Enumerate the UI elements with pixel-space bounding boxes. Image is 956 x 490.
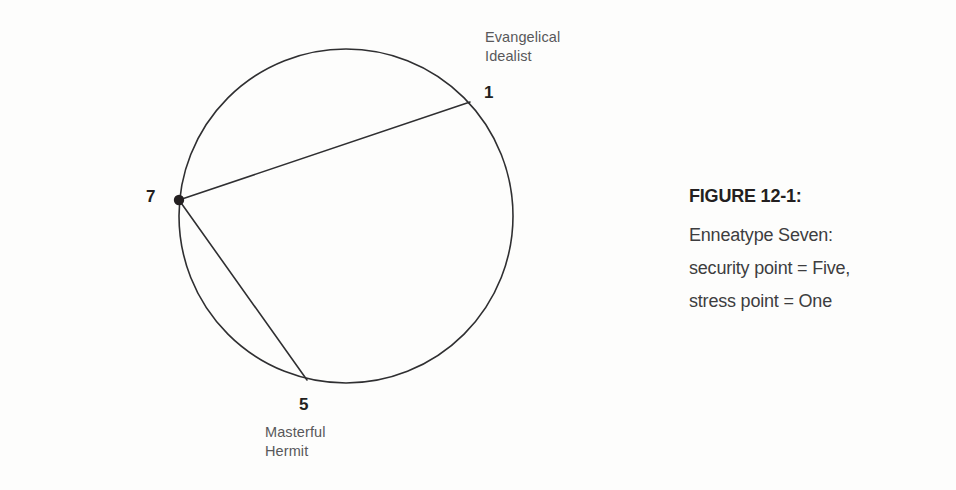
node-label-one-name-line1: Evangelical (485, 28, 560, 47)
figure-caption-title: FIGURE 12-1: (689, 186, 939, 207)
figure-caption-line-3: stress point = One (689, 285, 939, 318)
enneagram-svg (0, 0, 640, 490)
node-label-one-name: Evangelical Idealist (485, 28, 560, 66)
node-number-five: 5 (299, 396, 308, 413)
figure-page: Optimistic Dreamer 7 Evangelical Idealis… (0, 0, 956, 490)
connection-line-seven-one (179, 102, 470, 200)
node-label-five-name-line2: Hermit (265, 442, 326, 461)
enneagram-circle (179, 49, 513, 383)
connection-line-seven-five (179, 200, 307, 380)
node-number-seven: 7 (146, 188, 155, 205)
node-label-one-name-line2: Idealist (485, 47, 560, 66)
node-label-five-name: Masterful Hermit (265, 423, 326, 461)
enneagram-diagram: Optimistic Dreamer 7 Evangelical Idealis… (0, 0, 640, 490)
figure-caption: FIGURE 12-1: Enneatype Seven: security p… (689, 186, 939, 318)
node-number-one: 1 (484, 84, 493, 101)
node-label-five-name-line1: Masterful (265, 423, 326, 442)
figure-caption-line-1: Enneatype Seven: (689, 219, 939, 252)
figure-caption-line-2: security point = Five, (689, 252, 939, 285)
node-marker-seven (174, 195, 184, 205)
